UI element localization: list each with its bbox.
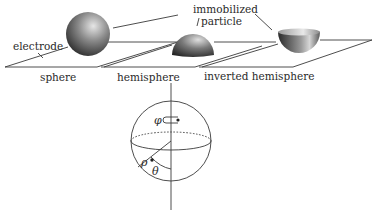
immobilized-label: immobilized	[193, 3, 258, 15]
particle-leader-sphere	[113, 15, 178, 28]
electrode-label: electrode	[13, 40, 63, 52]
rho-label: ρ	[140, 156, 148, 169]
phi-label: φ	[154, 114, 162, 127]
particle-label: particle	[201, 15, 242, 27]
inverted-hemisphere-particle	[278, 29, 320, 54]
spherical-coordinate-diagram	[131, 83, 211, 210]
geometry-label-sphere: sphere	[40, 71, 76, 83]
hemisphere-particle	[172, 34, 214, 57]
particle-leader-hemisphere	[197, 18, 199, 26]
sphere-particle	[66, 12, 110, 56]
particle-leader-inverted	[255, 14, 272, 30]
geometry-label-inverted-hemisphere: inverted hemisphere	[204, 70, 314, 82]
geometry-label-hemisphere: hemisphere	[117, 71, 180, 83]
electrode-particle-diagram: electrode immobilized particle sphere he…	[0, 0, 377, 216]
theta-label: θ	[152, 165, 159, 178]
